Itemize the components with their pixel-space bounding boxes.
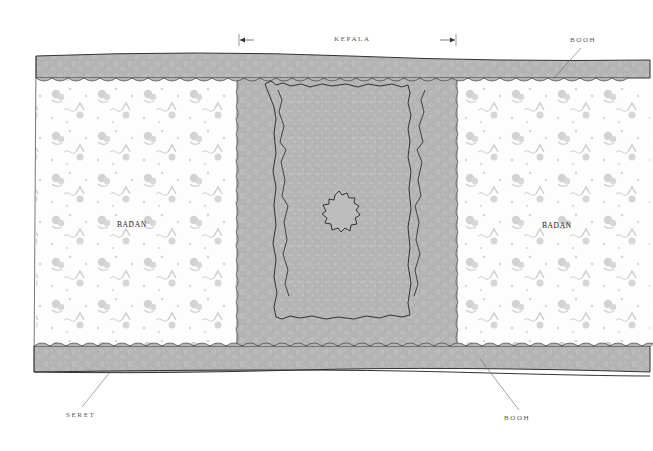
booh-bottom-band <box>34 346 650 373</box>
label-booh-bottom: BOOH <box>504 414 530 422</box>
label-kepala: KEPALA <box>334 35 371 43</box>
seret-leader <box>82 372 110 407</box>
label-badan-left: BADAN <box>117 220 147 229</box>
label-booh-top: BOOH <box>570 36 596 44</box>
label-badan-right: BADAN <box>542 221 572 230</box>
badan-left-panel <box>36 78 240 346</box>
booh-top-band <box>36 53 650 78</box>
badan-right-panel <box>454 76 650 346</box>
sarong-diagram: KEPALA BOOH SERET BOOH BADAN BADAN <box>0 0 653 451</box>
label-seret: SERET <box>66 411 95 419</box>
